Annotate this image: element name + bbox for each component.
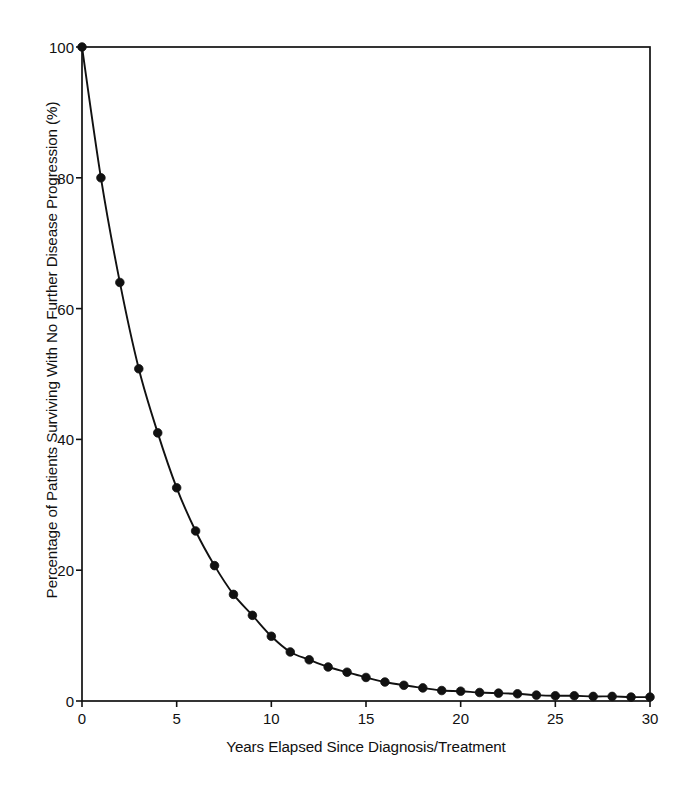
plot-svg	[22, 17, 696, 777]
data-point	[97, 174, 106, 183]
data-point	[116, 278, 125, 287]
data-point	[400, 681, 409, 690]
data-point	[343, 668, 352, 677]
data-point	[589, 692, 598, 701]
data-point	[532, 691, 541, 700]
data-point	[381, 678, 390, 687]
data-point	[78, 43, 87, 52]
data-point	[229, 590, 238, 599]
data-point	[437, 686, 446, 695]
data-point	[135, 364, 144, 373]
survival-curve-markers	[78, 43, 655, 702]
x-tick-label: 0	[78, 710, 86, 727]
x-tick-label: 25	[547, 710, 564, 727]
data-point	[475, 688, 484, 697]
data-point	[248, 611, 257, 620]
axes-ticks	[76, 47, 650, 707]
x-axis-tick-labels: 051015202530	[82, 710, 650, 734]
x-tick-label: 10	[263, 710, 280, 727]
data-point	[551, 691, 560, 700]
data-point	[362, 673, 371, 682]
data-point	[324, 663, 333, 672]
data-point	[456, 687, 465, 696]
data-point	[191, 527, 200, 536]
x-axis-title: Years Elapsed Since Diagnosis/Treatment	[82, 738, 650, 755]
figure: Percentage of Patients Surviving With No…	[0, 0, 696, 803]
data-point	[608, 692, 617, 701]
x-tick-label: 15	[358, 710, 375, 727]
data-point	[286, 648, 295, 657]
x-tick-label: 30	[642, 710, 659, 727]
data-point	[267, 632, 276, 641]
data-point	[646, 693, 655, 702]
data-point	[210, 561, 219, 570]
x-tick-label: 20	[452, 710, 469, 727]
data-point	[153, 429, 162, 438]
plot-area	[82, 47, 650, 701]
axes-frame	[82, 47, 650, 701]
data-point	[172, 484, 181, 493]
survival-curve-line	[82, 47, 650, 697]
data-point	[494, 689, 503, 698]
data-point	[570, 691, 579, 700]
data-point	[419, 684, 428, 693]
x-tick-label: 5	[173, 710, 181, 727]
data-point	[305, 656, 314, 665]
data-point	[513, 690, 522, 699]
data-point	[627, 693, 636, 702]
